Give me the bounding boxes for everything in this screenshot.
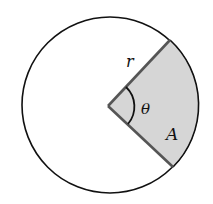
radius-label: r <box>126 52 135 71</box>
sector-diagram: r θ A <box>0 0 213 204</box>
angle-label: θ <box>141 100 150 118</box>
area-label: A <box>164 124 178 144</box>
